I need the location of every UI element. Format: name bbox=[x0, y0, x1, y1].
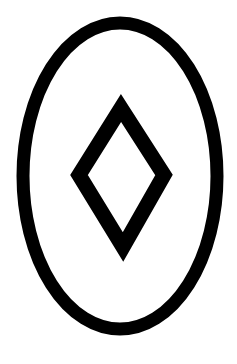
diamond-outline-icon bbox=[79, 108, 164, 247]
ellipse-diamond-symbol bbox=[0, 0, 237, 364]
ellipse-outline-icon bbox=[23, 23, 217, 329]
symbol-canvas bbox=[0, 0, 237, 364]
